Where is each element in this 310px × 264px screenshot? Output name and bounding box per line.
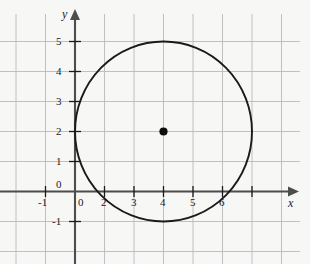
x-tick-label-4: 4 xyxy=(160,197,166,208)
x-tick-label-2: 2 xyxy=(101,197,107,208)
y-tick-label-2: 2 xyxy=(56,126,62,137)
x-axis-label: x xyxy=(288,197,293,209)
y-axis-arrow-icon xyxy=(70,9,80,20)
coordinate-plane xyxy=(0,0,310,264)
x-tick-label-6: 6 xyxy=(219,197,225,208)
x-axis-arrow-icon xyxy=(288,187,299,197)
circle-graph-figure: 5 4 3 2 1 0 -1 -1 0 2 3 4 5 6 y x xyxy=(0,0,310,264)
x-tick-label-3: 3 xyxy=(131,197,137,208)
y-tick-label-1: 1 xyxy=(56,156,62,167)
y-tick-label-3: 3 xyxy=(56,96,62,107)
x-tick-label-0: 0 xyxy=(78,197,84,208)
y-tick-label-5: 5 xyxy=(56,36,62,47)
x-tick-label-neg1: -1 xyxy=(38,197,47,208)
y-tick-label-neg1: -1 xyxy=(52,216,61,227)
y-axis-label: y xyxy=(62,8,67,20)
y-tick-label-4: 4 xyxy=(56,66,62,77)
center-point-marker xyxy=(159,127,167,135)
y-tick-label-0: 0 xyxy=(56,179,62,190)
x-tick-label-5: 5 xyxy=(190,197,196,208)
